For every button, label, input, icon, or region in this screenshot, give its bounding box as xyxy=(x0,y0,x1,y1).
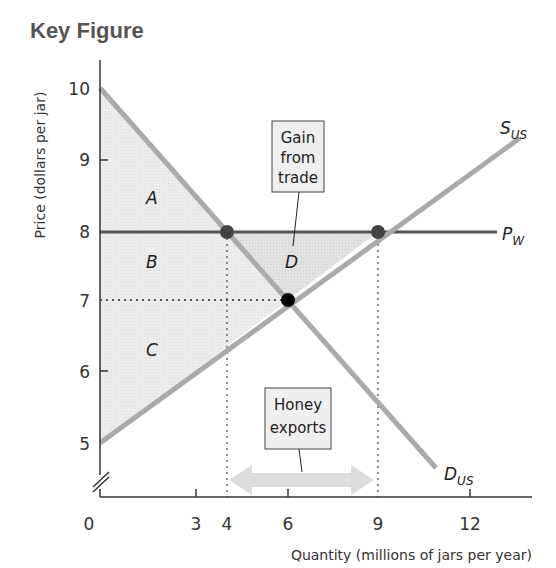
honey-text-1: Honey xyxy=(274,396,322,414)
point-demand-world xyxy=(220,225,234,239)
demand-label: DUS xyxy=(444,464,474,488)
gain-text-2: from xyxy=(281,149,316,167)
supply-label: SUS xyxy=(500,118,528,142)
gain-text-1: Gain xyxy=(281,129,316,147)
y-tick-7: 7 xyxy=(79,291,90,311)
x-tick-0: 0 xyxy=(84,514,95,534)
area-label-d: D xyxy=(285,252,298,272)
x-tick-12: 12 xyxy=(459,514,481,534)
chart: 10 9 8 7 6 5 0 3 4 6 9 12 Quantity (mill… xyxy=(0,0,556,568)
y-tick-8: 8 xyxy=(79,222,90,242)
gain-text-3: trade xyxy=(278,169,318,187)
y-tick-5: 5 xyxy=(79,434,90,454)
y-tick-10: 10 xyxy=(68,79,90,99)
y-axis-label: Price (dollars per jar) xyxy=(32,92,48,239)
x-tick-9: 9 xyxy=(373,514,384,534)
point-supply-world xyxy=(371,225,385,239)
x-tick-3: 3 xyxy=(191,514,202,534)
world-price-label: PW xyxy=(502,224,525,248)
x-tick-4: 4 xyxy=(222,514,233,534)
point-equilibrium xyxy=(281,293,295,307)
x-axis-label: Quantity (millions of jars per year) xyxy=(291,547,532,563)
area-label-c: C xyxy=(146,340,158,360)
honey-text-2: exports xyxy=(270,419,327,437)
area-label-a: A xyxy=(145,188,158,208)
y-tick-6: 6 xyxy=(79,362,90,382)
y-tick-9: 9 xyxy=(79,150,90,170)
x-tick-6: 6 xyxy=(283,514,294,534)
area-label-b: B xyxy=(146,252,158,272)
